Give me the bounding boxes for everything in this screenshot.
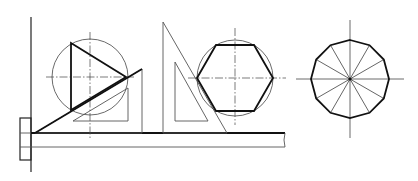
equilateral-triangle bbox=[71, 43, 126, 110]
inscribed-triangle-panel bbox=[35, 32, 142, 138]
t-square-head bbox=[20, 118, 31, 160]
inscribed-dodecagon-panel bbox=[296, 20, 404, 138]
inscribed-hexagon-panel bbox=[163, 22, 286, 133]
polygon-construction-diagram bbox=[0, 0, 418, 181]
center-point bbox=[348, 77, 351, 80]
t-square-blade-end bbox=[284, 133, 285, 147]
set-square-hypotenuse-edge bbox=[35, 69, 142, 133]
tall-set-square bbox=[163, 22, 227, 133]
